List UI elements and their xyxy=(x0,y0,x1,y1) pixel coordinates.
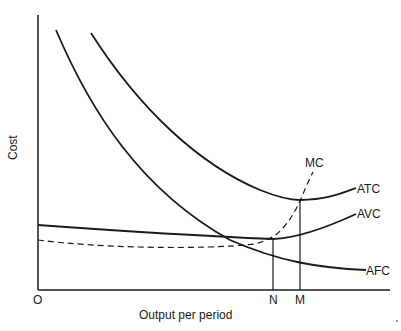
afc-curve xyxy=(56,30,366,270)
atc-label: ATC xyxy=(357,183,380,195)
stray-dot xyxy=(396,320,398,322)
atc-curve xyxy=(91,33,356,200)
m-label: M xyxy=(295,294,305,306)
n-label: N xyxy=(269,294,278,306)
afc-label: AFC xyxy=(366,265,390,277)
y-axis-label: Cost xyxy=(6,135,20,160)
origin-label: O xyxy=(33,294,42,306)
mc-label: MC xyxy=(305,157,324,169)
avc-label: AVC xyxy=(357,208,381,220)
avc-curve xyxy=(38,214,356,239)
x-axis-label: Output per period xyxy=(139,309,232,321)
cost-curves-diagram xyxy=(0,0,401,331)
mc-curve xyxy=(38,172,313,247)
